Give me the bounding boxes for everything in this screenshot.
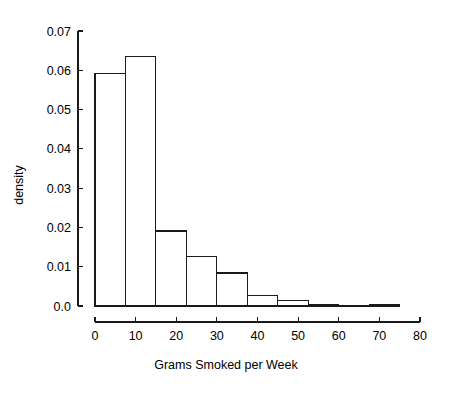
x-axis-tick-label: 50 <box>291 329 305 343</box>
x-axis-tick-label: 40 <box>251 329 265 343</box>
histogram-bar <box>156 231 186 306</box>
x-axis-tick-label: 20 <box>169 329 183 343</box>
x-axis-tick-label: 70 <box>372 329 386 343</box>
y-axis-tick-label: 0.06 <box>47 64 71 78</box>
histogram-bar <box>95 73 125 306</box>
histogram-bar <box>125 56 155 306</box>
x-axis-tick-label: 10 <box>129 329 143 343</box>
histogram-bar <box>217 273 247 306</box>
y-axis-tick-label: 0.05 <box>47 103 71 117</box>
x-axis-tick-label: 30 <box>210 329 224 343</box>
x-axis-tick-label: 60 <box>332 329 346 343</box>
histogram-svg: 0.00.010.020.030.040.050.060.07 01020304… <box>0 0 453 394</box>
x-axis-tick-label: 80 <box>413 329 427 343</box>
y-axis-tick-label: 0.07 <box>47 25 71 39</box>
histogram-figure: 0.00.010.020.030.040.050.060.07 01020304… <box>0 0 453 394</box>
histogram-bar <box>369 304 399 306</box>
x-axis-title: Grams Smoked per Week <box>154 358 298 372</box>
y-axis-tick-label: 0.01 <box>47 260 71 274</box>
y-axis-title: density <box>12 164 26 204</box>
histogram-bar <box>278 301 308 306</box>
y-axis-tick-label: 0.02 <box>47 221 71 235</box>
histogram-bar <box>308 304 338 306</box>
y-axis-tick-label: 0.0 <box>54 300 71 314</box>
y-axis-tick-label: 0.04 <box>47 142 71 156</box>
y-axis-tick-label: 0.03 <box>47 182 71 196</box>
histogram-bar <box>186 256 216 306</box>
x-axis-tick-label: 0 <box>92 329 99 343</box>
histogram-bar <box>247 296 277 306</box>
